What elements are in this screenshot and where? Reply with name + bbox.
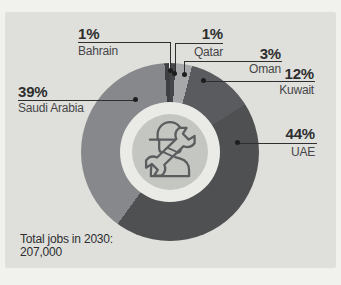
leader-dot-saudi-arabia bbox=[133, 97, 138, 102]
total-jobs-line1: Total jobs in 2030: bbox=[20, 233, 113, 246]
callout-value-uae: 44% bbox=[237, 126, 315, 141]
callout-value-bahrain: 1% bbox=[78, 26, 99, 41]
callout-value-saudi-arabia: 39% bbox=[18, 84, 47, 99]
callout-label-saudi-arabia: Saudi Arabia bbox=[18, 102, 84, 114]
leader-line-bahrain bbox=[78, 42, 171, 43]
worker-wrench-icon bbox=[137, 119, 203, 185]
leader-dot-qatar bbox=[172, 71, 177, 76]
callout-value-oman: 3% bbox=[184, 46, 281, 61]
callout-label-kuwait: Kuwait bbox=[203, 84, 314, 96]
jobs-donut-infographic: 1% Bahrain 1% Qatar 3% Oman 12% Kuwait 4… bbox=[0, 0, 341, 285]
total-jobs-annotation: Total jobs in 2030: 207,000 bbox=[20, 233, 113, 258]
callout-value-qatar: 1% bbox=[175, 26, 223, 41]
leader-line-kuwait bbox=[203, 81, 315, 82]
leader-dot-uae bbox=[235, 140, 240, 145]
callout-label-bahrain: Bahrain bbox=[78, 45, 118, 57]
leader-line-uae bbox=[237, 143, 317, 144]
donut-center-circle bbox=[132, 114, 208, 190]
leader-line-saudi-arabia bbox=[18, 100, 135, 101]
total-jobs-line2: 207,000 bbox=[20, 246, 113, 259]
leader-line-bahrain-vertical bbox=[170, 42, 171, 70]
leader-dot-kuwait bbox=[201, 78, 206, 83]
leader-line-qatar-vertical bbox=[175, 43, 176, 73]
leader-line-oman bbox=[184, 61, 282, 62]
leader-dot-oman bbox=[182, 72, 187, 77]
leader-line-qatar bbox=[175, 43, 224, 44]
callout-label-uae: UAE bbox=[237, 146, 315, 158]
callout-value-kuwait: 12% bbox=[203, 66, 314, 81]
